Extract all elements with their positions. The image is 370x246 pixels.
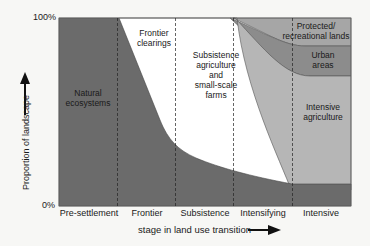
label-protected-recreational: Protected/ recreational lands	[280, 21, 352, 41]
stage-label-pre-settlement: Pre-settlement	[56, 208, 122, 218]
label-urban-areas: Urban areas	[295, 50, 351, 70]
stage-label-frontier: Frontier	[118, 208, 176, 218]
stage-label-intensive: Intensive	[292, 208, 350, 218]
stage-label-subsistence: Subsistence	[176, 208, 234, 218]
label-frontier-clearings: Frontier clearings	[130, 28, 178, 48]
label-natural-ecosystems: Natural ecosystems	[62, 88, 114, 108]
stage-label-intensifying: Intensifying	[234, 208, 292, 218]
x-axis-label: stage in land use transition	[138, 224, 251, 235]
label-intensive-agriculture: Intensive agriculture	[295, 102, 351, 122]
y-tick-0: 0%	[42, 200, 55, 210]
label-subsistence-agriculture: Subsistence agriculture and small-scale …	[186, 50, 246, 100]
y-tick-100: 100%	[33, 12, 56, 22]
y-axis-label: Proportion of landscape	[21, 95, 31, 190]
arrow-right-icon	[248, 225, 281, 235]
